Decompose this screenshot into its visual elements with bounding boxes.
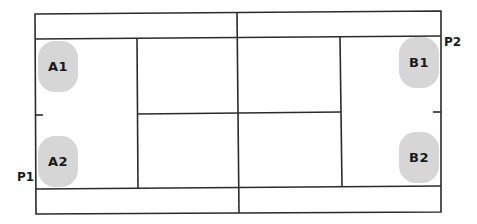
player-a1: A1 bbox=[38, 41, 78, 92]
center-service-line bbox=[138, 112, 341, 114]
player-b2-label: B2 bbox=[409, 150, 429, 165]
court-diagram bbox=[0, 0, 477, 224]
player-a2-label: A2 bbox=[48, 154, 68, 169]
left-short-service-line bbox=[137, 38, 138, 189]
side-label-p1: P1 bbox=[17, 170, 34, 184]
player-a2: A2 bbox=[38, 136, 78, 187]
player-a1-label: A1 bbox=[48, 59, 68, 74]
side-label-p2: P2 bbox=[444, 35, 461, 49]
player-b1: B1 bbox=[399, 37, 439, 88]
player-b2: B2 bbox=[399, 132, 439, 183]
player-b1-label: B1 bbox=[409, 55, 429, 70]
